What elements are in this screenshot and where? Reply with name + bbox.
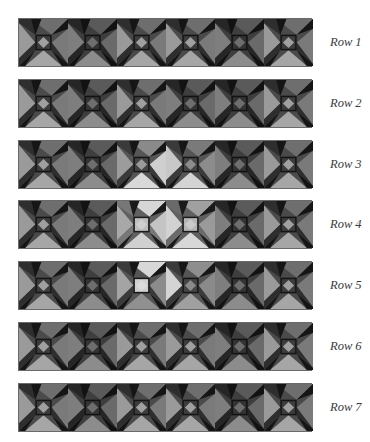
quilt-block (215, 323, 264, 370)
quilt-block (68, 262, 117, 309)
quilt-block (264, 384, 313, 431)
quilt-block (68, 80, 117, 127)
quilt-block (19, 323, 68, 370)
quilt-block (19, 201, 68, 248)
quilt-block (19, 80, 68, 127)
quilt-block (215, 141, 264, 188)
quilt-block (215, 201, 264, 248)
quilt-block (117, 262, 166, 309)
quilt-block (166, 323, 215, 370)
quilt-row (18, 383, 312, 432)
quilt-row (18, 261, 312, 310)
quilt-block (19, 384, 68, 431)
quilt-block (68, 141, 117, 188)
quilt-block (117, 384, 166, 431)
quilt-block (117, 201, 166, 248)
row-label: Row 6 (330, 339, 362, 353)
quilt-row (18, 200, 312, 249)
quilt-block (215, 80, 264, 127)
quilt-block (264, 80, 313, 127)
quilt-block (68, 384, 117, 431)
quilt-block (215, 262, 264, 309)
quilt-block (166, 19, 215, 66)
row-label: Row 3 (330, 157, 362, 171)
row-label: Row 1 (330, 35, 362, 49)
quilt-block (19, 19, 68, 66)
quilt-block (264, 323, 313, 370)
quilt-block (215, 19, 264, 66)
quilt-block (166, 262, 215, 309)
row-label: Row 5 (330, 278, 362, 292)
quilt-row (18, 140, 312, 189)
quilt-block (215, 384, 264, 431)
quilt-block (117, 323, 166, 370)
row-label: Row 4 (330, 217, 362, 231)
quilt-block (166, 201, 215, 248)
quilt-block (166, 80, 215, 127)
quilt-block (19, 141, 68, 188)
quilt-block (264, 141, 313, 188)
quilt-block (117, 80, 166, 127)
quilt-row (18, 18, 312, 67)
quilt-block (19, 262, 68, 309)
quilt-row (18, 79, 312, 128)
quilt-block (166, 384, 215, 431)
quilt-block (68, 201, 117, 248)
row-label: Row 7 (330, 400, 362, 414)
quilt-block (264, 19, 313, 66)
quilt-block (264, 262, 313, 309)
quilt-block (68, 323, 117, 370)
quilt-block (264, 201, 313, 248)
quilt-block (166, 141, 215, 188)
quilt-block (68, 19, 117, 66)
quilt-row (18, 322, 312, 371)
quilt-block (117, 19, 166, 66)
quilt-block (117, 141, 166, 188)
row-label: Row 2 (330, 96, 362, 110)
